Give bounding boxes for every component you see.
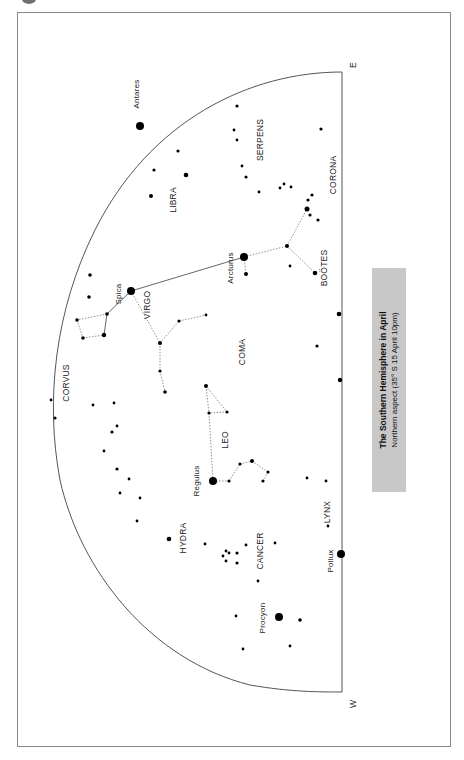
star bbox=[308, 213, 311, 216]
bright-star bbox=[275, 613, 283, 621]
star bbox=[327, 525, 330, 528]
star bbox=[204, 543, 207, 546]
star bbox=[75, 318, 79, 322]
constellation-dashed-line bbox=[77, 314, 107, 320]
star bbox=[310, 193, 313, 196]
star-name-label: Procyon bbox=[258, 603, 267, 634]
star bbox=[244, 272, 248, 276]
constellation-dashed-line bbox=[244, 246, 287, 257]
bright-star bbox=[337, 550, 345, 558]
star bbox=[315, 344, 318, 347]
star bbox=[128, 478, 131, 481]
star bbox=[228, 552, 231, 555]
star bbox=[204, 384, 208, 388]
star-points bbox=[50, 104, 343, 650]
star bbox=[136, 520, 139, 523]
star bbox=[241, 165, 244, 168]
constellation-dashed-line bbox=[206, 386, 227, 412]
star bbox=[236, 139, 239, 142]
constellation-dashed-line bbox=[209, 412, 227, 413]
horizon-arc bbox=[53, 72, 342, 692]
star-name-label: Regulus bbox=[192, 466, 201, 497]
star bbox=[113, 402, 116, 405]
star bbox=[102, 333, 106, 337]
star bbox=[245, 544, 248, 547]
star bbox=[325, 480, 328, 483]
star bbox=[139, 497, 142, 500]
star bbox=[338, 378, 342, 382]
star bbox=[306, 198, 309, 201]
star bbox=[235, 551, 238, 554]
constellation-dashed-line bbox=[287, 209, 307, 246]
star bbox=[242, 648, 245, 651]
star bbox=[261, 479, 264, 482]
constellation-dashed-line bbox=[252, 461, 268, 472]
star bbox=[290, 186, 293, 189]
constellation-dashed-line bbox=[160, 371, 165, 392]
star bbox=[152, 168, 155, 171]
star bbox=[235, 615, 238, 618]
constellation-label: VIRGO bbox=[142, 291, 152, 320]
constellation-dashed-line bbox=[160, 321, 179, 343]
constellation-dashed-line bbox=[206, 386, 209, 413]
star bbox=[149, 194, 153, 198]
star bbox=[316, 218, 319, 221]
constellation-label: CORONA bbox=[328, 156, 338, 195]
star bbox=[266, 470, 269, 473]
constellation-label: HYDRA bbox=[178, 522, 188, 553]
bright-star bbox=[136, 122, 144, 130]
star bbox=[225, 410, 228, 413]
constellation-label: LIBRA bbox=[168, 187, 178, 213]
star bbox=[250, 459, 254, 463]
caption-title: The Southern Hemisphere in April bbox=[378, 311, 389, 448]
constellation-line bbox=[104, 314, 107, 335]
star-name-label: Antares bbox=[132, 80, 141, 109]
caption-box: The Southern Hemisphere in April Norther… bbox=[372, 268, 406, 492]
star bbox=[222, 555, 225, 558]
star bbox=[92, 404, 95, 407]
star bbox=[233, 129, 236, 132]
star bbox=[176, 149, 179, 152]
star bbox=[205, 314, 208, 317]
star bbox=[257, 580, 260, 583]
star bbox=[184, 173, 189, 178]
constellation-label: BOÖTES bbox=[319, 250, 329, 287]
star bbox=[158, 341, 162, 345]
star bbox=[207, 411, 210, 414]
constellation-label: LEO bbox=[220, 431, 230, 449]
star bbox=[81, 336, 85, 340]
star bbox=[53, 416, 56, 419]
constellation-dashed-line bbox=[179, 315, 206, 321]
star-name-label: Arcturus bbox=[226, 252, 235, 283]
star bbox=[225, 550, 228, 553]
star bbox=[244, 175, 247, 178]
constellation-dashed-line bbox=[229, 464, 240, 481]
constellation-dashed-lines bbox=[77, 209, 315, 481]
constellation-dashed-line bbox=[209, 413, 213, 481]
constellation-dashed-line bbox=[287, 246, 315, 273]
star bbox=[238, 462, 241, 465]
star bbox=[115, 467, 118, 470]
compass-west-label: W bbox=[348, 700, 358, 708]
star bbox=[88, 273, 92, 277]
star bbox=[110, 430, 113, 433]
star bbox=[87, 295, 91, 299]
constellation-labels: AntaresArcturusSpicaRegulusPolluxProcyon… bbox=[61, 80, 338, 634]
caption-content: The Southern Hemisphere in April Norther… bbox=[372, 268, 406, 492]
star bbox=[105, 312, 109, 316]
compass-east-label: E bbox=[348, 62, 358, 68]
star-name-label: Spica bbox=[114, 283, 123, 304]
star bbox=[177, 319, 180, 322]
constellation-label: CORVUS bbox=[61, 364, 71, 402]
constellation-label: COMA bbox=[237, 339, 247, 365]
star bbox=[298, 618, 302, 622]
star bbox=[50, 399, 53, 402]
star bbox=[337, 312, 342, 317]
star bbox=[283, 183, 286, 186]
star bbox=[289, 265, 292, 268]
constellation-label: LYNX bbox=[322, 501, 332, 524]
star bbox=[227, 479, 230, 482]
star bbox=[158, 369, 161, 372]
bright-star bbox=[127, 287, 135, 295]
star bbox=[225, 560, 228, 563]
